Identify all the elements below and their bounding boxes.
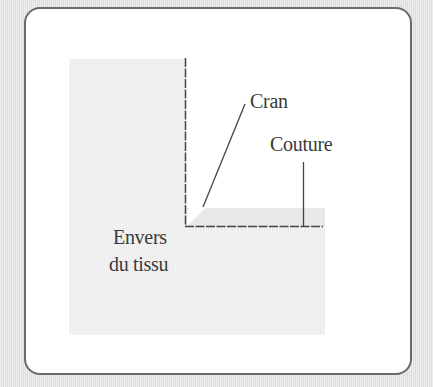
couture-label: Couture	[270, 134, 332, 154]
seam-corner-diagram	[0, 0, 433, 387]
cran-leader-line	[203, 104, 245, 207]
envers-label-line2: du tissu	[109, 254, 168, 274]
cran-label: Cran	[250, 91, 288, 111]
envers-label-line1: Envers	[113, 227, 167, 247]
